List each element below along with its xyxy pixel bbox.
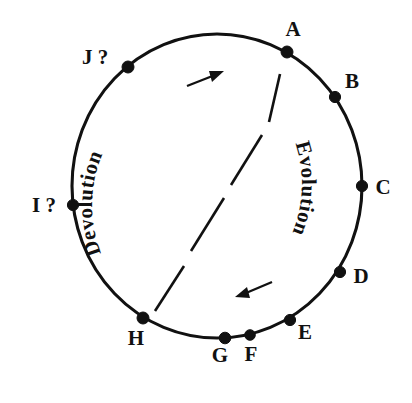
cycle-diagram-figure: A B C D E F G H I ? J ? Devolution Evolu…: [0, 0, 412, 403]
cycle-diagram-canvas: A B C D E F G H I ? J ? Devolution Evolu…: [0, 0, 412, 403]
node-dot-f[interactable]: [245, 330, 256, 341]
evolution-arrow-head: [235, 287, 250, 298]
evolution-label: Evolution: [288, 138, 321, 239]
node-dot-e[interactable]: [284, 314, 295, 325]
devolution-label-text: Devolution: [73, 147, 107, 259]
node-label-b: B: [345, 69, 359, 93]
node-dot-a[interactable]: [281, 46, 293, 58]
dash-segment: [269, 74, 280, 122]
node-label-h: H: [128, 326, 144, 350]
devolution-arrow: [187, 71, 224, 86]
dash-segment: [155, 266, 184, 311]
node-dot-h[interactable]: [137, 312, 149, 324]
devolution-arrow-head: [209, 71, 224, 82]
cycle-circle: [72, 34, 362, 338]
node-dot-d[interactable]: [334, 266, 345, 277]
evolution-label-group: Evolution: [288, 138, 321, 239]
dashed-diagonal-divider: [155, 74, 280, 311]
node-dot-group: [67, 46, 367, 344]
node-label-g: G: [212, 343, 228, 367]
dash-segment: [191, 198, 224, 251]
evolution-arrow: [235, 282, 272, 298]
evolution-arrow-shaft: [246, 282, 272, 293]
node-label-d: D: [353, 264, 368, 288]
node-label-i: I ?: [32, 193, 56, 217]
dash-segment: [231, 135, 262, 185]
node-label-a: A: [285, 17, 301, 41]
node-label-e: E: [298, 320, 312, 344]
devolution-label: Devolution: [73, 147, 107, 259]
node-label-f: F: [245, 342, 258, 366]
node-label-j: J ?: [82, 45, 108, 69]
evolution-label-text: Evolution: [288, 138, 321, 239]
node-label-c: C: [375, 175, 390, 199]
node-dot-b[interactable]: [329, 91, 340, 102]
node-dot-c[interactable]: [356, 180, 367, 191]
node-dot-j[interactable]: [122, 61, 134, 73]
